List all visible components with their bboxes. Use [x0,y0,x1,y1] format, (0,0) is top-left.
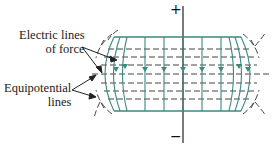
field-diagram [0,0,278,147]
force-label-line2: of force [19,42,85,56]
force-label-line1: Electric lines [19,28,85,42]
minus-sign: − [170,128,182,144]
force-label: Electric lines of force [19,28,85,56]
equipotential-label-line2: lines [4,95,71,109]
equipotential-label: Equipotential lines [4,81,71,109]
plus-sign: + [170,1,182,17]
equipotential-label-line1: Equipotential [4,81,71,95]
